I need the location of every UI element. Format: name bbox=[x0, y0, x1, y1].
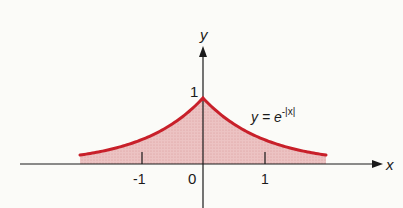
y-axis-arrow-icon bbox=[199, 46, 207, 57]
x-tick-label-neg1: -1 bbox=[133, 171, 146, 187]
x-axis-arrow-icon bbox=[372, 160, 383, 168]
function-annotation: y = e-|x| bbox=[250, 106, 295, 125]
y-tick-label-1: 1 bbox=[190, 83, 198, 100]
annotation-exponent: -|x| bbox=[282, 106, 296, 117]
x-tick-label-0: 0 bbox=[188, 170, 196, 187]
y-axis-label: y bbox=[199, 26, 209, 43]
x-tick-label-1: 1 bbox=[261, 171, 269, 187]
x-axis-label: x bbox=[385, 156, 394, 173]
chart-figure: y x 1 -1 0 1 y = e-|x| bbox=[0, 0, 403, 208]
svg-text:y = e-|x|: y = e-|x| bbox=[250, 106, 295, 125]
annotation-eq-e: = e bbox=[258, 109, 282, 125]
